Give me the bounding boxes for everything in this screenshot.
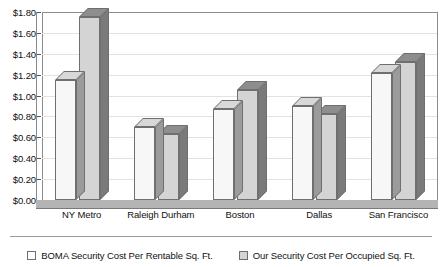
bar-series-1: [134, 127, 155, 200]
y-axis-tick-label: $0.40: [13, 153, 36, 164]
bar-side-face: [313, 97, 322, 200]
chart-page: $0.00$0.20$0.40$0.60$0.80$1.00$1.20$1.40…: [0, 0, 442, 267]
x-axis-tick-label: NY Metro: [62, 209, 101, 220]
y-axis-tick-label: $0.80: [13, 111, 36, 122]
bar-side-face: [76, 71, 85, 200]
x-axis-tick-label: Dallas: [306, 209, 332, 220]
y-axis-tick-mark: [37, 158, 41, 159]
legend-item-label: BOMA Security Cost Per Rentable Sq. Ft.: [41, 250, 212, 261]
bar-group: [280, 12, 359, 200]
bar-front-face: [292, 106, 313, 200]
y-axis-tick-label: $0.60: [13, 132, 36, 143]
y-axis-tick-mark: [37, 96, 41, 97]
bar-front-face: [213, 109, 234, 200]
y-axis-tick-mark: [37, 116, 41, 117]
bar-group: [121, 12, 200, 200]
bar-front-face: [55, 80, 76, 200]
x-axis-tick-label: Raleigh Durham: [127, 209, 194, 220]
x-axis-tick-label: Boston: [226, 209, 255, 220]
bar-group: [359, 12, 438, 200]
bar-series-1: [371, 73, 392, 200]
y-axis-tick-label: $0.00: [13, 195, 36, 206]
y-axis-tick-mark: [37, 179, 41, 180]
bar-front-face: [134, 127, 155, 200]
y-axis-tick-label: $1.20: [13, 69, 36, 80]
y-axis-tick-label: $1.40: [13, 48, 36, 59]
x-axis-tick-label: San Francisco: [369, 209, 428, 220]
bar-series-1: [292, 106, 313, 200]
y-axis-tick-mark: [37, 33, 41, 34]
bar-side-face: [416, 53, 425, 200]
bar-series-1: [55, 80, 76, 200]
bar-side-face: [234, 100, 243, 200]
bar-side-face: [337, 105, 346, 200]
bar-side-face: [100, 8, 109, 200]
legend-swatch-icon: [239, 251, 248, 260]
chart-floor-face: [36, 200, 438, 209]
bar-side-face: [392, 64, 401, 200]
x-axis: NY MetroRaleigh DurhamBostonDallasSan Fr…: [42, 209, 442, 225]
y-axis-tick-mark: [37, 54, 41, 55]
chart-legend: BOMA Security Cost Per Rentable Sq. Ft.O…: [0, 248, 442, 262]
legend-swatch-icon: [27, 251, 36, 260]
bar-series-1: [213, 109, 234, 200]
y-axis-tick-label: $1.60: [13, 27, 36, 38]
bar-group: [42, 12, 121, 200]
y-axis-tick-label: $1.80: [13, 7, 36, 18]
y-axis-tick-label: $1.00: [13, 90, 36, 101]
legend-item-label: Our Security Cost Per Occupied Sq. Ft.: [253, 250, 415, 261]
bars-layer: [42, 12, 438, 209]
legend-item[interactable]: BOMA Security Cost Per Rentable Sq. Ft.: [27, 250, 212, 261]
y-axis-tick-mark: [37, 75, 41, 76]
y-axis-tick-mark: [37, 137, 41, 138]
y-axis-tick-label: $0.20: [13, 174, 36, 185]
bar-group: [200, 12, 279, 200]
bar-side-face: [155, 118, 164, 200]
y-axis: $0.00$0.20$0.40$0.60$0.80$1.00$1.20$1.40…: [0, 0, 36, 225]
chart-plot-area: $0.00$0.20$0.40$0.60$0.80$1.00$1.20$1.40…: [0, 0, 442, 225]
legend-item[interactable]: Our Security Cost Per Occupied Sq. Ft.: [239, 250, 415, 261]
chart-floor: [36, 200, 438, 209]
bar-side-face: [179, 125, 188, 200]
bar-side-face: [258, 81, 267, 200]
bar-front-face: [371, 73, 392, 200]
y-axis-tick-mark: [37, 12, 41, 13]
legend-divider: [10, 236, 432, 237]
